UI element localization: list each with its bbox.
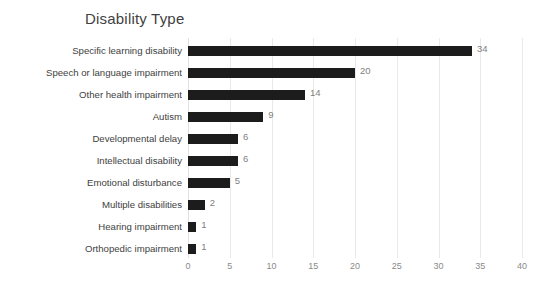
bar-value-label: 20 <box>360 65 371 76</box>
category-label: Hearing impairment <box>98 216 182 238</box>
bar-value-label: 6 <box>243 153 248 164</box>
bar-row[interactable]: 1 <box>188 216 522 238</box>
bar[interactable] <box>188 68 355 78</box>
x-tick-label: 0 <box>185 261 190 271</box>
category-label: Multiple disabilities <box>102 194 182 216</box>
bar-value-label: 14 <box>310 87 321 98</box>
bar-row[interactable]: 20 <box>188 62 522 84</box>
bar[interactable] <box>188 90 305 100</box>
bar-value-label: 6 <box>243 131 248 142</box>
bar-value-label: 1 <box>201 241 206 252</box>
bar[interactable] <box>188 178 230 188</box>
bar[interactable] <box>188 156 238 166</box>
category-axis-labels: Specific learning disabilitySpeech or la… <box>0 38 182 258</box>
bar-chart: Disability Type Specific learning disabi… <box>0 0 538 291</box>
x-tick-label: 5 <box>227 261 232 271</box>
category-label: Orthopedic impairment <box>85 238 182 260</box>
bar-row[interactable]: 6 <box>188 128 522 150</box>
bar[interactable] <box>188 222 196 232</box>
x-tick-label: 25 <box>392 261 402 271</box>
category-label: Speech or language impairment <box>46 62 182 84</box>
bar[interactable] <box>188 46 472 56</box>
category-label: Developmental delay <box>92 128 182 150</box>
bar[interactable] <box>188 134 238 144</box>
bar-row[interactable]: 1 <box>188 238 522 260</box>
category-label: Intellectual disability <box>97 150 182 172</box>
bar-row[interactable]: 5 <box>188 172 522 194</box>
x-axis-tick-labels: 0510152025303540 <box>188 261 522 277</box>
bar-value-label: 34 <box>477 43 488 54</box>
category-label: Specific learning disability <box>72 40 182 62</box>
x-tick-label: 40 <box>517 261 527 271</box>
x-tick-label: 20 <box>350 261 360 271</box>
bar-row[interactable]: 34 <box>188 40 522 62</box>
bar-row[interactable]: 2 <box>188 194 522 216</box>
category-label: Other health impairment <box>79 84 182 106</box>
category-label: Autism <box>153 106 182 128</box>
x-tick-label: 15 <box>308 261 318 271</box>
bar-row[interactable]: 14 <box>188 84 522 106</box>
category-label: Emotional disturbance <box>87 172 182 194</box>
x-tick-label: 30 <box>433 261 443 271</box>
bar[interactable] <box>188 112 263 122</box>
bar-series: 3420149665211 <box>188 38 522 258</box>
bar-row[interactable]: 6 <box>188 150 522 172</box>
bar-value-label: 1 <box>201 219 206 230</box>
x-tick-label: 10 <box>266 261 276 271</box>
plot-area: 3420149665211 <box>188 38 522 258</box>
bar-row[interactable]: 9 <box>188 106 522 128</box>
bar-value-label: 2 <box>210 197 215 208</box>
x-tick-label: 35 <box>475 261 485 271</box>
bar[interactable] <box>188 200 205 210</box>
bar-value-label: 9 <box>268 109 273 120</box>
bar-value-label: 5 <box>235 175 240 186</box>
gridline-40 <box>522 38 523 258</box>
chart-title: Disability Type <box>85 10 184 27</box>
bar[interactable] <box>188 244 196 254</box>
